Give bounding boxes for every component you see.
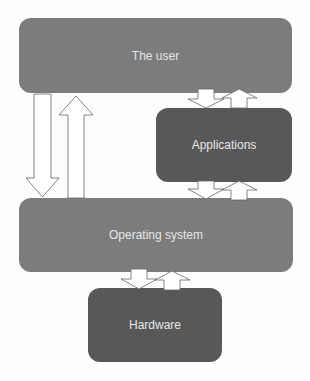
arrow-up-icon [222,181,257,200]
arrow-down-icon [188,89,224,108]
arrows-layer [0,0,310,381]
diagram-canvas: The user Applications Operating system H… [0,0,310,381]
arrow-down-icon [188,181,224,199]
arrow-down-icon [121,269,157,289]
arrow-down-icon [26,94,59,197]
arrow-up-icon [222,89,257,108]
arrow-up-icon [59,96,93,198]
arrow-up-icon [155,271,190,290]
